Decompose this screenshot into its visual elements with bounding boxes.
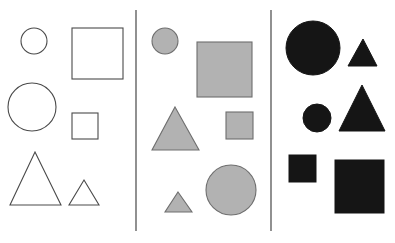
black-small-triangle <box>348 39 377 66</box>
figure-canvas <box>0 0 395 243</box>
black-large-square <box>335 160 384 213</box>
outline-small-square <box>72 113 98 139</box>
panel-gray <box>152 28 256 215</box>
panel-black <box>286 21 385 213</box>
black-large-circle <box>286 21 340 75</box>
shape-panels-figure <box>0 0 395 243</box>
outline-large-circle <box>8 83 56 131</box>
black-large-triangle <box>339 85 385 131</box>
gray-large-circle <box>206 165 256 215</box>
outline-small-triangle <box>69 180 99 205</box>
gray-small-circle <box>152 28 178 54</box>
gray-large-square <box>197 42 252 97</box>
black-small-circle <box>303 104 331 132</box>
gray-large-triangle <box>152 107 199 150</box>
panel-outline <box>8 28 123 205</box>
gray-small-triangle <box>165 192 192 212</box>
outline-large-triangle <box>10 152 61 205</box>
black-small-square <box>289 155 316 182</box>
outline-large-square <box>72 28 123 79</box>
outline-small-circle <box>21 28 47 54</box>
gray-small-square <box>226 112 253 139</box>
panels-group <box>8 21 385 215</box>
